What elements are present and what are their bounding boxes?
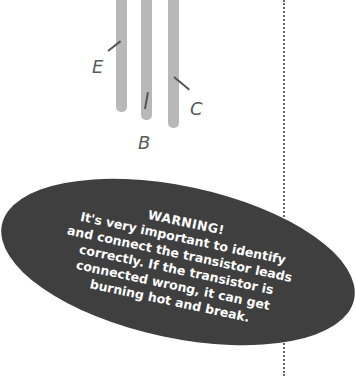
- warning-text-layer: WARNING! It's very important to identify…: [0, 0, 356, 376]
- warning-text: WARNING! It's very important to identify…: [56, 191, 301, 333]
